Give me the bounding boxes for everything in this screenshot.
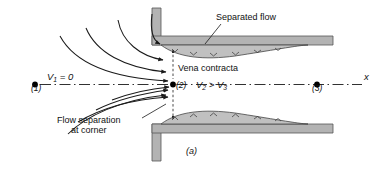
v1-value: = 0 bbox=[57, 71, 73, 82]
upper-separation-bubble bbox=[161, 45, 308, 58]
greater-than-symbol: > bbox=[206, 79, 217, 90]
x-axis-label: x bbox=[364, 72, 369, 83]
upper-streamlines bbox=[60, 14, 168, 81]
station-3-label: (3) bbox=[312, 84, 322, 94]
v3-subscript: 3 bbox=[223, 84, 227, 91]
vena-contracta-label: Vena contracta bbox=[178, 63, 238, 73]
streamline-lower-3 bbox=[96, 90, 168, 110]
lower-wall-horizontal-segment bbox=[152, 124, 333, 133]
lower-pipe-wall bbox=[152, 124, 333, 161]
velocity-comparison-label: V2 > V3 bbox=[196, 80, 227, 91]
inlet-velocity-label: V1 = 0 bbox=[47, 72, 73, 83]
lower-separation-region bbox=[161, 111, 308, 124]
station-2-label: (2) bbox=[176, 81, 186, 91]
separated-flow-label: Separated flow bbox=[216, 12, 276, 22]
figure-caption: (a) bbox=[186, 146, 197, 156]
flow-separation-leader-line bbox=[142, 104, 166, 118]
upper-wall-horizontal-segment bbox=[152, 36, 333, 45]
upper-separation-region bbox=[161, 45, 308, 58]
lower-separation-bubble bbox=[161, 111, 308, 124]
figure-container: Separated flow Vena contracta (2) V2 > V… bbox=[0, 0, 385, 169]
flow-separation-label: Flow separation at corner bbox=[57, 115, 121, 135]
flow-separation-line-1: Flow separation bbox=[57, 115, 121, 125]
station-1-label: (1) bbox=[31, 84, 41, 94]
flow-separation-line-2: at corner bbox=[57, 125, 121, 135]
diagram-canvas bbox=[0, 0, 385, 169]
